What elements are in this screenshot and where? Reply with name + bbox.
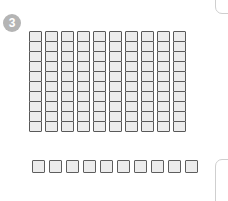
unit-cube[interactable] [29,121,42,132]
ten-rod-column[interactable] [125,31,138,132]
hundred-flat-block[interactable] [29,31,186,132]
unit-cube[interactable] [157,121,170,132]
panel-edge-bottom-right [215,159,228,201]
unit-cube[interactable] [77,121,90,132]
unit-cube[interactable] [93,121,106,132]
ten-rod-column[interactable] [93,31,106,132]
unit-cube[interactable] [134,160,147,173]
ten-rod-column[interactable] [157,31,170,132]
unit-cube[interactable] [109,121,122,132]
base-ten-blocks-workspace: 3 [0,0,228,201]
step-number-badge: 3 [3,14,21,32]
panel-edge-top-right [215,0,228,14]
ten-rod-column[interactable] [45,31,58,132]
ten-rod-column[interactable] [173,31,186,132]
unit-cube[interactable] [125,121,138,132]
ten-rod-column[interactable] [29,31,42,132]
ten-rod-block[interactable] [32,160,198,173]
unit-cube[interactable] [173,121,186,132]
unit-cube[interactable] [100,160,113,173]
unit-cube[interactable] [168,160,181,173]
unit-cube[interactable] [83,160,96,173]
unit-cube[interactable] [117,160,130,173]
unit-cube[interactable] [49,160,62,173]
unit-cube[interactable] [66,160,79,173]
unit-cube[interactable] [32,160,45,173]
unit-cube[interactable] [185,160,198,173]
unit-cube[interactable] [45,121,58,132]
unit-cube[interactable] [141,121,154,132]
ten-rod-column[interactable] [61,31,74,132]
ten-rod-column[interactable] [77,31,90,132]
unit-cube[interactable] [151,160,164,173]
ten-rod-column[interactable] [141,31,154,132]
ten-rod-column[interactable] [109,31,122,132]
unit-cube[interactable] [61,121,74,132]
